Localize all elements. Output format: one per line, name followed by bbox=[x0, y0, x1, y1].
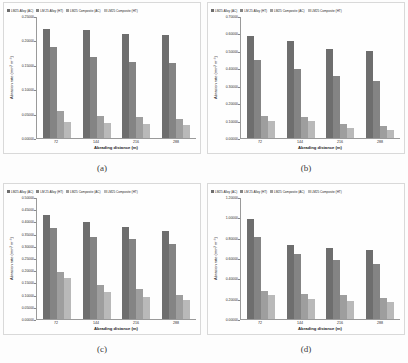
legend-item-label: LM25 Alloy (AC) bbox=[215, 9, 237, 13]
legend-item[interactable]: LM25 Alloy (AC) bbox=[7, 9, 33, 13]
legend-item[interactable]: LM 25 Alloy (HT) bbox=[240, 190, 267, 194]
y-axis-tick-label: 0.60000 bbox=[226, 32, 238, 36]
bar bbox=[340, 124, 347, 138]
bar-group bbox=[156, 198, 196, 319]
plot-wrap: Abrasion rate (mm³ m⁻¹)0.000000.100000.2… bbox=[211, 17, 400, 139]
plot-wrap: Abrasion rate (mm³ m⁻¹)0.000000.050000.1… bbox=[7, 198, 196, 320]
bar bbox=[104, 292, 111, 319]
bar-groups bbox=[241, 198, 400, 319]
x-axis-label: Abrading distance (m) bbox=[36, 326, 196, 332]
legend-item-label: LM 25 Alloy (HT) bbox=[244, 9, 267, 13]
legend-swatch-icon bbox=[104, 190, 107, 193]
legend-item[interactable]: LM25 Alloy (AC) bbox=[211, 190, 237, 194]
y-axis-tick-label: 0.25000 bbox=[22, 15, 34, 19]
y-axis-tick-label: 0.30000 bbox=[22, 245, 34, 249]
legend-swatch-icon bbox=[308, 9, 311, 12]
y-axis-tick-label: 1.20000 bbox=[226, 196, 238, 200]
y-axis-tick-label: 0.40000 bbox=[22, 220, 34, 224]
chart-legend: LM25 Alloy (AC)LM 25 Alloy (HT)LM25 Comp… bbox=[211, 187, 400, 196]
legend-item-label: LM25 Composite (AC) bbox=[70, 190, 100, 194]
legend-item[interactable]: LM25 Composite (HT) bbox=[104, 9, 138, 13]
x-axis-label: Abrading distance (m) bbox=[240, 145, 400, 151]
bar bbox=[169, 244, 176, 319]
y-axis-tick-label: 0.80000 bbox=[226, 237, 238, 241]
bar bbox=[129, 62, 136, 138]
bar bbox=[261, 291, 268, 319]
bar-group bbox=[37, 198, 77, 319]
legend-item-label: LM25 Composite (AC) bbox=[274, 9, 304, 13]
legend-item-label: LM25 Composite (HT) bbox=[108, 190, 138, 194]
y-axis-tick-label: 0.70000 bbox=[226, 15, 238, 19]
legend-item-label: LM25 Composite (AC) bbox=[274, 190, 304, 194]
chart-panel-c: LM25 Alloy (AC)LM 25 Alloy (HT)LM25 Comp… bbox=[0, 181, 204, 363]
plot-area bbox=[36, 17, 196, 139]
legend-swatch-icon bbox=[240, 190, 243, 193]
bar bbox=[326, 248, 333, 319]
figure-grid: LM25 Alloy (AC)LM 25 Alloy (HT)LM25 Comp… bbox=[0, 0, 408, 363]
bar bbox=[366, 250, 373, 319]
y-axis-tick-label: 0.15000 bbox=[22, 64, 34, 68]
y-axis-label: Abrasion rate (mm³ m⁻¹) bbox=[7, 17, 15, 139]
legend-item[interactable]: LM 25 Alloy (HT) bbox=[36, 9, 63, 13]
legend-item[interactable]: LM25 Composite (HT) bbox=[308, 9, 342, 13]
bar bbox=[387, 302, 394, 319]
legend-item[interactable]: LM25 Composite (HT) bbox=[104, 190, 138, 194]
y-axis-tick-label: 0.50000 bbox=[226, 50, 238, 54]
y-axis-tick-label: 0.05000 bbox=[22, 306, 34, 310]
y-axis-tick-label: 0.25000 bbox=[22, 257, 34, 261]
legend-item-label: LM25 Composite (HT) bbox=[312, 9, 342, 13]
bar bbox=[50, 47, 57, 138]
y-axis-tick-label: 0.50000 bbox=[22, 196, 34, 200]
bar bbox=[326, 49, 333, 138]
legend-item[interactable]: LM25 Composite (AC) bbox=[66, 9, 100, 13]
bar bbox=[122, 34, 129, 138]
legend-item[interactable]: LM25 Composite (AC) bbox=[270, 9, 304, 13]
legend-item-label: LM25 Alloy (AC) bbox=[11, 9, 33, 13]
chart-legend: LM25 Alloy (AC)LM 25 Alloy (HT)LM25 Comp… bbox=[7, 187, 196, 196]
bar bbox=[387, 130, 394, 138]
bar bbox=[287, 245, 294, 319]
bar bbox=[64, 122, 71, 138]
legend-item-label: LM 25 Alloy (HT) bbox=[40, 9, 63, 13]
bar bbox=[301, 294, 308, 319]
bar bbox=[308, 299, 315, 319]
legend-item[interactable]: LM25 Composite (AC) bbox=[66, 190, 100, 194]
bar bbox=[136, 117, 143, 138]
bar-group bbox=[281, 198, 321, 319]
legend-item[interactable]: LM25 Alloy (AC) bbox=[211, 9, 237, 13]
y-axis-tick-label: 0.35000 bbox=[22, 233, 34, 237]
legend-item[interactable]: LM25 Alloy (AC) bbox=[7, 190, 33, 194]
legend-item-label: LM25 Composite (AC) bbox=[70, 9, 100, 13]
legend-item[interactable]: LM 25 Alloy (HT) bbox=[240, 9, 267, 13]
bar bbox=[254, 237, 261, 319]
legend-swatch-icon bbox=[104, 9, 107, 12]
bar-group bbox=[321, 17, 361, 138]
bar bbox=[183, 300, 190, 319]
legend-item-label: LM 25 Alloy (HT) bbox=[40, 190, 63, 194]
bar bbox=[373, 264, 380, 319]
bar bbox=[333, 260, 340, 319]
bar bbox=[183, 125, 190, 138]
bar bbox=[176, 119, 183, 138]
bar bbox=[268, 295, 275, 319]
bar-group bbox=[241, 17, 281, 138]
y-axis-tick-label: 0.10000 bbox=[226, 120, 238, 124]
plot-area bbox=[240, 198, 400, 320]
legend-swatch-icon bbox=[270, 9, 273, 12]
bar bbox=[169, 63, 176, 139]
bar bbox=[57, 272, 64, 319]
legend-item[interactable]: LM25 Composite (AC) bbox=[270, 190, 304, 194]
y-axis-tick-label: 1.00000 bbox=[226, 216, 238, 220]
panel-caption: (c) bbox=[3, 335, 201, 363]
bar bbox=[247, 219, 254, 319]
legend-item[interactable]: LM25 Composite (HT) bbox=[308, 190, 342, 194]
bar bbox=[380, 298, 387, 319]
y-axis-tick-label: 0.40000 bbox=[226, 277, 238, 281]
y-axis-tick-label: 0.40000 bbox=[226, 67, 238, 71]
y-axis-label: Abrasion rate (mm³ m⁻¹) bbox=[211, 17, 219, 139]
legend-item[interactable]: LM 25 Alloy (HT) bbox=[36, 190, 63, 194]
bar-group bbox=[360, 17, 400, 138]
bar bbox=[43, 215, 50, 319]
y-axis-tick-label: 0.20000 bbox=[226, 298, 238, 302]
bar bbox=[104, 123, 111, 138]
